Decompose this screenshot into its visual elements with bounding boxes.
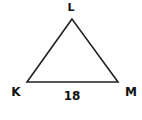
triangle-klm — [27, 19, 118, 82]
vertex-label-l: L — [67, 1, 74, 14]
triangle-diagram: L K M 18 — [0, 0, 142, 120]
vertex-label-k: K — [11, 85, 21, 99]
vertex-label-m: M — [125, 85, 137, 99]
base-length-label: 18 — [64, 89, 81, 103]
